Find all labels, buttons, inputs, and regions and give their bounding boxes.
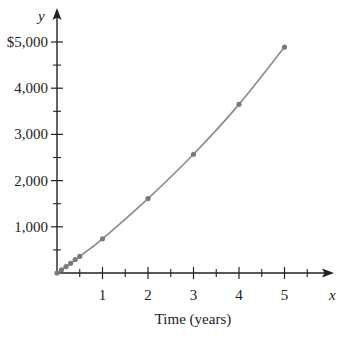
y-tick-label: $5,000 xyxy=(7,34,48,50)
x-tick-label: 5 xyxy=(281,287,289,303)
data-point-marker xyxy=(64,264,69,269)
x-axis-title: Time (years) xyxy=(155,311,232,328)
tick-labels: 123451,0002,0003,0004,000$5,000 xyxy=(7,34,289,303)
y-axis-variable: y xyxy=(36,8,45,24)
data-markers xyxy=(54,44,287,275)
data-point-marker xyxy=(68,261,73,266)
data-point-marker xyxy=(73,257,78,262)
data-point-marker xyxy=(77,254,82,259)
y-tick-label: 4,000 xyxy=(14,80,48,96)
y-tick-label: 2,000 xyxy=(14,173,48,189)
data-point-marker xyxy=(236,102,241,107)
data-point-marker xyxy=(282,44,287,49)
data-curve xyxy=(57,47,285,273)
x-axis-variable: x xyxy=(328,287,336,303)
data-point-marker xyxy=(191,152,196,157)
data-point-marker xyxy=(54,270,59,275)
ticks xyxy=(51,42,307,279)
y-tick-label: 1,000 xyxy=(14,219,48,235)
y-tick-label: 3,000 xyxy=(14,126,48,142)
x-tick-label: 1 xyxy=(99,287,107,303)
axes xyxy=(53,8,335,278)
data-point-marker xyxy=(59,267,64,272)
data-point-marker xyxy=(145,196,150,201)
data-point-marker xyxy=(100,236,105,241)
chart: 123451,0002,0003,0004,000$5,000 x y Time… xyxy=(0,0,340,339)
x-tick-label: 3 xyxy=(190,287,198,303)
x-tick-label: 2 xyxy=(144,287,152,303)
x-tick-label: 4 xyxy=(235,287,243,303)
